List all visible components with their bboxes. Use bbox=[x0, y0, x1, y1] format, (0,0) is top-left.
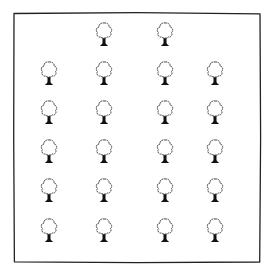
tree-icon bbox=[155, 139, 175, 165]
tree-icon bbox=[155, 100, 175, 126]
tree-icon bbox=[94, 61, 114, 87]
tree-icon bbox=[94, 100, 114, 126]
tree-icon bbox=[155, 61, 175, 87]
tree-icon bbox=[155, 22, 175, 48]
tree-icon bbox=[94, 22, 114, 48]
tree-icon bbox=[39, 139, 59, 165]
tree-icon bbox=[155, 218, 175, 244]
tree-icon bbox=[94, 218, 114, 244]
tree-icon bbox=[155, 178, 175, 204]
tree-icon bbox=[39, 218, 59, 244]
tree-icon bbox=[39, 100, 59, 126]
tree-icon bbox=[39, 61, 59, 87]
tree-icon bbox=[205, 218, 225, 244]
tree-icon bbox=[39, 178, 59, 204]
tree-icon bbox=[205, 139, 225, 165]
tree-icon bbox=[94, 178, 114, 204]
tree-icon bbox=[205, 178, 225, 204]
tree-icon bbox=[94, 139, 114, 165]
tree-icon bbox=[205, 100, 225, 126]
tree-icon bbox=[205, 61, 225, 87]
